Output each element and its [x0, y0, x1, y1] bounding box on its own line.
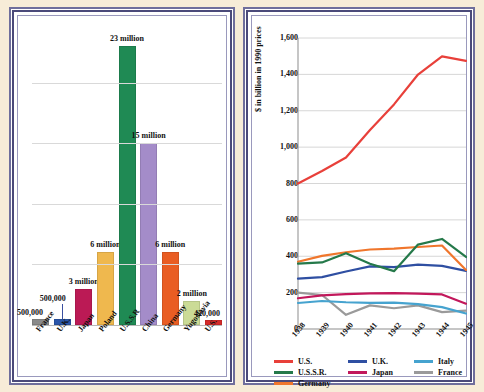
- legend-swatch-icon: [414, 371, 433, 374]
- legend-swatch-icon: [274, 371, 293, 374]
- bar-value-label: 15 million: [132, 131, 166, 140]
- legend-swatch-icon: [348, 360, 367, 363]
- bar-value-label: 6 million: [90, 240, 120, 249]
- bar-column[interactable]: 6 million: [162, 34, 179, 325]
- figure-root: 500,000500,0003 million6 million23 milli…: [0, 0, 484, 392]
- line-chart-inner-border: $ in billion in 1990 prices 020040060080…: [251, 15, 467, 377]
- legend-item-italy[interactable]: Italy: [414, 357, 470, 366]
- legend-label: U.S.: [298, 357, 312, 366]
- bar-value-label: 23 million: [110, 34, 144, 43]
- line-chart-panel: $ in billion in 1990 prices 020040060080…: [246, 10, 472, 382]
- legend-swatch-icon: [348, 371, 367, 374]
- bar-rect[interactable]: [119, 46, 136, 325]
- bar-plot-area: 500,000500,0003 million6 million23 milli…: [32, 34, 222, 326]
- bar-value-label: 3 million: [69, 277, 99, 286]
- line-plot-wrapper: $ in billion in 1990 prices 020040060080…: [252, 16, 478, 388]
- bar-value-label: 500,000: [40, 294, 66, 303]
- legend-row: U.S.S.R.JapanFrance: [274, 367, 470, 378]
- bar-column[interactable]: 6 million: [97, 34, 114, 325]
- bar-value-label: 6 million: [155, 240, 185, 249]
- line-series-us[interactable]: [298, 56, 466, 183]
- legend-label: U.K.: [372, 357, 388, 366]
- bar-x-axis-labels: FranceU.K.JapanPolandU.S.S.RChinaGermany…: [32, 328, 222, 380]
- legend-swatch-icon: [274, 382, 293, 385]
- legend-item-germany[interactable]: Germany: [274, 379, 348, 388]
- bar-gridline: [32, 143, 222, 144]
- legend-label: Japan: [372, 368, 393, 377]
- bar-rect[interactable]: [140, 143, 157, 325]
- legend-row: Germany: [274, 378, 470, 389]
- bar-value-label: 500,000: [17, 308, 43, 317]
- bar-column[interactable]: 3 million: [75, 34, 92, 325]
- legend-swatch-icon: [414, 360, 433, 363]
- bar-chart-inner-border: 500,000500,0003 million6 million23 milli…: [17, 15, 227, 377]
- legend-label: U.S.S.R.: [298, 368, 326, 377]
- legend-item-uk[interactable]: U.K.: [348, 357, 414, 366]
- bar-column[interactable]: 15 million: [140, 34, 157, 325]
- legend-row: U.S.U.K.Italy: [274, 356, 470, 367]
- bar-gridline: [32, 83, 222, 84]
- legend-label: France: [438, 368, 462, 377]
- legend-label: Germany: [298, 379, 330, 388]
- bar-gridline: [32, 204, 222, 205]
- bar-chart-panel: 500,000500,0003 million6 million23 milli…: [12, 10, 232, 382]
- legend-item-japan[interactable]: Japan: [348, 368, 414, 377]
- bar-column[interactable]: 420,000: [205, 34, 222, 325]
- line-chart-legend: U.S.U.K.ItalyU.S.S.R.JapanFranceGermany: [274, 356, 470, 389]
- legend-swatch-icon: [274, 360, 293, 363]
- legend-label: Italy: [438, 357, 454, 366]
- bar-column[interactable]: 500,000: [32, 34, 49, 325]
- legend-item-us[interactable]: U.S.: [274, 357, 348, 366]
- legend-item-ussr[interactable]: U.S.S.R.: [274, 368, 348, 377]
- bar-value-label: 2 million: [177, 289, 207, 298]
- bar-series-container: 500,000500,0003 million6 million23 milli…: [32, 34, 222, 325]
- bar-column[interactable]: 2 million: [183, 34, 200, 325]
- bar-gridline: [32, 264, 222, 265]
- bar-column[interactable]: 23 million: [119, 34, 136, 325]
- legend-item-france[interactable]: France: [414, 368, 470, 377]
